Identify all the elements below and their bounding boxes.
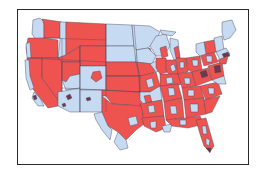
us-choropleth-map: [0, 0, 262, 174]
region-california-nevada: [25, 58, 62, 108]
region-southwest: [58, 62, 106, 112]
